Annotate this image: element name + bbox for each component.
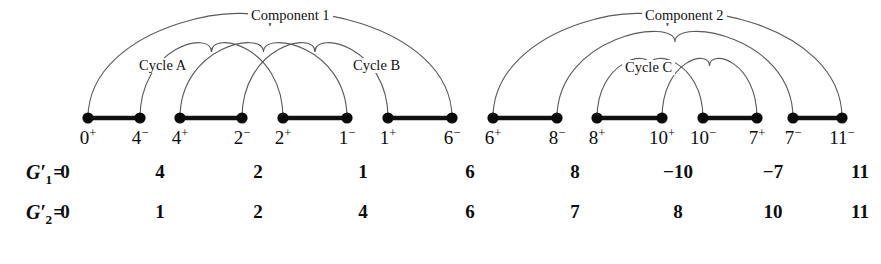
- vertex-label-v1m: 1−: [339, 128, 356, 147]
- row-g2-value-5: 7: [570, 202, 580, 221]
- vertex-label-v8m: 8−: [549, 128, 566, 147]
- vertex-dot-v7p[interactable]: [751, 112, 762, 123]
- vertex-label-v0p: 0+: [80, 128, 97, 147]
- vertex-dot-v6p[interactable]: [487, 112, 498, 123]
- vertex-dot-v6m[interactable]: [446, 112, 457, 123]
- row-g1-value-5: 8: [570, 162, 580, 181]
- row-g1-value-3: 1: [358, 162, 368, 181]
- row-g1-value-7: −7: [763, 162, 783, 181]
- vertex-label-v11m: 11−: [829, 128, 854, 147]
- vertex-label-v10m: 10−: [690, 128, 716, 147]
- row-g2-value-4: 6: [465, 202, 475, 221]
- row-g2-value-0: 0: [60, 202, 70, 221]
- row-g1-value-1: 4: [155, 162, 165, 181]
- vertex-label-v1p: 1+: [380, 128, 397, 147]
- component-2-arc-3: [662, 58, 757, 118]
- row-g2-value-7: 10: [764, 202, 783, 221]
- vertex-label-v7m: 7−: [785, 128, 802, 147]
- row-g1-value-0: 0: [60, 162, 70, 181]
- row-g2-value-2: 2: [253, 202, 263, 221]
- vertex-dot-v10m[interactable]: [697, 112, 708, 123]
- row-g2-name: G′2=: [26, 202, 65, 222]
- vertex-dot-v8m[interactable]: [551, 112, 562, 123]
- vertex-dot-v2m[interactable]: [236, 112, 247, 123]
- cycle-a-caption: Cycle A: [136, 58, 189, 73]
- vertex-label-v10p: 10+: [649, 128, 675, 147]
- vertex-label-v6p: 6+: [485, 128, 502, 147]
- vertex-dot-v7m[interactable]: [787, 112, 798, 123]
- cycle-b-caption: Cycle B: [350, 58, 403, 73]
- vertex-label-v6m: 6−: [444, 128, 461, 147]
- row-g1-value-6: −10: [663, 162, 693, 181]
- vertex-dot-v2p[interactable]: [277, 112, 288, 123]
- row-g1-value-2: 2: [253, 162, 263, 181]
- vertex-dot-v1p[interactable]: [382, 112, 393, 123]
- row-g2-value-8: 11: [851, 202, 869, 221]
- vertex-label-v7p: 7+: [749, 128, 766, 147]
- vertex-dot-v8p[interactable]: [591, 112, 602, 123]
- vertex-label-v4p: 4+: [172, 128, 189, 147]
- vertex-dot-v1m[interactable]: [341, 112, 352, 123]
- component-1-arc-1: [140, 43, 283, 118]
- vertex-dot-v4m[interactable]: [134, 112, 145, 123]
- cycle-c-caption: Cycle C: [622, 60, 675, 75]
- row-g2-value-3: 4: [358, 202, 368, 221]
- row-g1-name: G′1=: [26, 162, 65, 182]
- component-1-caption: Component 1: [248, 8, 333, 23]
- vertex-label-v2m: 2−: [234, 128, 251, 147]
- row-g1-value-4: 6: [465, 162, 475, 181]
- row-g1-value-8: 11: [851, 162, 869, 181]
- breakpoint-graph-figure: Component 1Cycle ACycle B0+4−4+2−2+1−1+6…: [0, 0, 881, 264]
- component-2-caption: Component 2: [642, 8, 727, 23]
- vertex-dot-v0p[interactable]: [82, 112, 93, 123]
- vertex-dot-v10p[interactable]: [656, 112, 667, 123]
- vertex-dot-v4p[interactable]: [174, 112, 185, 123]
- component-1-arc-2: [180, 43, 347, 118]
- row-g2-value-1: 1: [155, 202, 165, 221]
- component-1-arc-3: [242, 43, 388, 118]
- vertex-label-v2p: 2+: [275, 128, 292, 147]
- row-g2-value-6: 8: [673, 202, 683, 221]
- vertex-label-v4m: 4−: [132, 128, 149, 147]
- vertex-label-v8p: 8+: [589, 128, 606, 147]
- vertex-dot-v11m[interactable]: [836, 112, 847, 123]
